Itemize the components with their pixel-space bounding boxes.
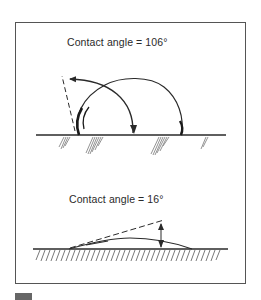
film-outline bbox=[69, 238, 192, 249]
bottom-surface-hatching bbox=[36, 250, 220, 261]
top-panel-drawing bbox=[36, 76, 226, 155]
tangent-dashed-line bbox=[62, 76, 75, 131]
bottom-panel-drawing bbox=[33, 220, 228, 261]
contact-angle-diagram bbox=[0, 0, 261, 300]
angle-arc-arrowhead-bottom bbox=[130, 125, 137, 134]
droplet-left-shading bbox=[77, 108, 82, 135]
top-surface-hatching bbox=[59, 137, 208, 155]
droplet-right-shading bbox=[180, 121, 182, 135]
droplet-outline bbox=[77, 78, 182, 135]
tangent-dashed-line-bottom bbox=[70, 220, 164, 248]
grey-marker-swatch bbox=[15, 293, 32, 300]
